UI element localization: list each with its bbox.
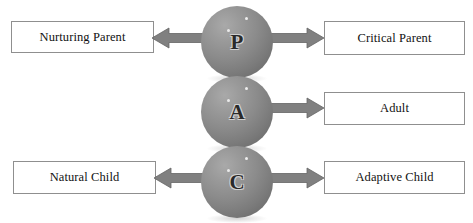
sphere-highlight-dot-icon [227,99,230,102]
label-box-adaptive-child: Adaptive Child [324,161,465,194]
sphere-highlight-dot-icon [227,29,230,32]
sphere-child: C [201,146,273,218]
label-text-natural-child: Natural Child [50,170,120,185]
arrow-parent-to-critical-parent [267,27,324,49]
sphere-adult: A [201,76,273,148]
label-text-nurturing-parent: Nurturing Parent [40,30,126,45]
sphere-letter-child: C [229,172,244,193]
label-box-nurturing-parent: Nurturing Parent [11,21,154,53]
arrow-parent-to-nurturing-parent [152,27,208,49]
label-box-critical-parent: Critical Parent [324,21,465,55]
sphere-highlight-dot-icon [245,17,248,20]
label-text-critical-parent: Critical Parent [357,31,431,46]
label-text-adult: Adult [380,101,409,116]
sphere-parent: P [201,6,273,78]
sphere-highlight-dot-icon [227,169,230,172]
label-text-adaptive-child: Adaptive Child [355,170,433,185]
sphere-highlight-dot-icon [245,157,248,160]
sphere-letter-parent: P [231,32,244,53]
ego-states-diagram: Nurturing Parent Critical Parent Adult N… [0,0,473,223]
sphere-highlight-dot-icon [245,87,248,90]
label-box-natural-child: Natural Child [13,161,156,194]
arrow-child-to-adaptive-child [267,167,324,189]
sphere-letter-adult: A [229,102,244,123]
label-box-adult: Adult [324,92,465,125]
arrow-adult-to-adult [267,97,324,119]
